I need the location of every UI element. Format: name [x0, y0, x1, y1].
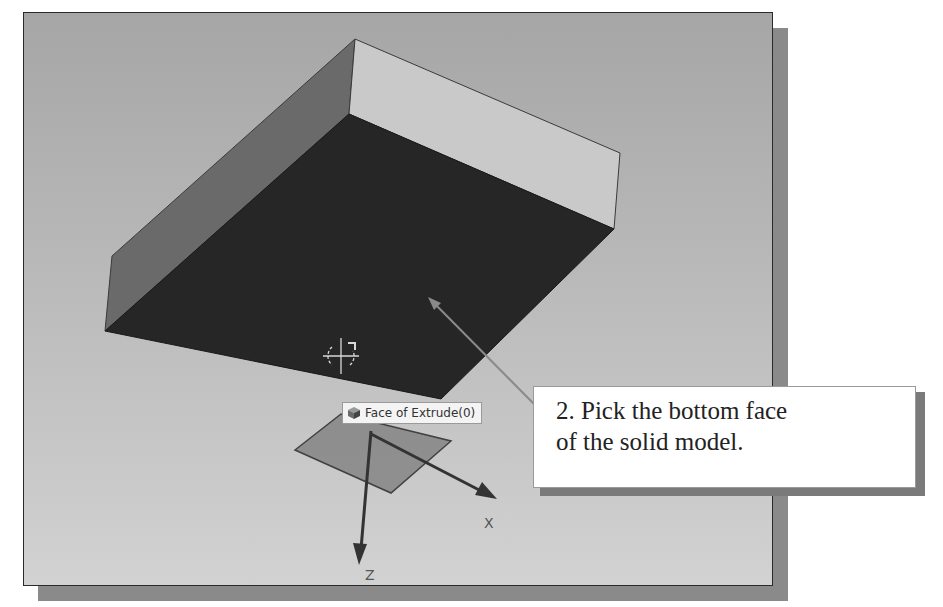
selection-tooltip: Face of Extrude(0): [342, 402, 482, 424]
callout-line-2: of the solid model.: [556, 426, 915, 457]
z-axis-label: Z: [365, 567, 375, 583]
x-axis-arrow-icon: [475, 482, 497, 499]
graphics-viewport[interactable]: Face of Extrude(0) X Z: [23, 12, 773, 586]
instruction-callout: 2. Pick the bottom face of the solid mod…: [533, 386, 916, 488]
x-axis-label: X: [484, 515, 494, 531]
cube-icon: [347, 406, 361, 420]
tooltip-label: Face of Extrude(0): [365, 406, 475, 420]
callout-line-1: 2. Pick the bottom face: [556, 395, 915, 426]
sketch-plane: [295, 414, 451, 493]
model-scene: [23, 12, 773, 586]
z-axis-arrow-icon: [353, 543, 367, 565]
